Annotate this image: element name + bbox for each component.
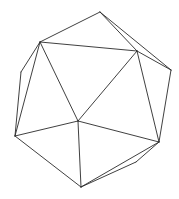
edge-upper_left-center [40, 42, 78, 121]
icosahedron-figure [0, 0, 179, 199]
edge-bottom_left-bottom [15, 136, 81, 187]
edge-top-right [100, 12, 171, 70]
edge-upper_right-center [78, 51, 137, 121]
edge-center-bottom [78, 121, 81, 187]
edge-bottom_left-center [15, 121, 78, 136]
edge-hidden_lower-bottom [81, 162, 136, 187]
icosahedron-drawing [0, 0, 179, 199]
edge-upper_right-lower_right [137, 51, 159, 142]
edge-top-upper_left [40, 12, 100, 42]
edge-upper_right-right [137, 51, 171, 70]
edge-upper_left-left [21, 42, 40, 72]
edge-top-upper_right [100, 12, 137, 51]
edge-center-lower_right [78, 121, 159, 142]
edge-upper_left-bottom_left [15, 42, 40, 136]
edge-lower_right-hidden_lower [136, 142, 159, 162]
edge-upper_left-upper_right [40, 42, 137, 51]
edge-lower_right-bottom [81, 142, 159, 187]
edge-right-lower_right [159, 70, 171, 142]
